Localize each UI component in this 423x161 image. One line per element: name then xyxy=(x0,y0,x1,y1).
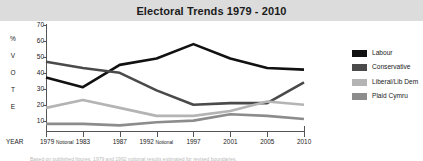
x-axis-year: 1983 xyxy=(76,138,90,145)
x-axis-note: Notional xyxy=(156,140,174,145)
legend-item: Plaid Cymru xyxy=(352,90,423,105)
axis-tick-marks xyxy=(43,26,305,137)
legend-label: Conservative xyxy=(372,64,410,71)
x-axis-tick-label: 2010 xyxy=(297,139,311,145)
x-axis-tick-label: 1997 xyxy=(186,139,200,145)
x-axis-tick-label: 2001 xyxy=(223,139,237,145)
x-axis-year: 1992 xyxy=(140,138,154,145)
x-axis-tick-labels: 1979 Notional198319871992 Notional199720… xyxy=(0,139,423,150)
legend-item: Conservative xyxy=(352,61,423,76)
legend-item: Liberal/Lib Dem xyxy=(352,75,423,90)
data-series-lines xyxy=(46,44,304,125)
x-axis-year: 1987 xyxy=(113,138,127,145)
x-axis-year: 1979 xyxy=(40,138,54,145)
legend: LabourConservativeLiberal/Lib DemPlaid C… xyxy=(352,46,423,104)
x-axis-year: 1997 xyxy=(186,138,200,145)
x-axis-note: Notional xyxy=(56,140,74,145)
legend-item: Labour xyxy=(352,46,423,61)
x-axis-tick-label: 1979 Notional xyxy=(40,139,74,146)
legend-swatch xyxy=(352,93,367,100)
legend-swatch xyxy=(352,64,367,71)
legend-swatch xyxy=(352,50,367,57)
legend-label: Labour xyxy=(372,50,393,57)
x-axis-year: 2010 xyxy=(297,138,311,145)
series-line xyxy=(46,100,304,116)
x-axis-tick-label: 1987 xyxy=(113,139,127,145)
legend-swatch xyxy=(352,79,367,86)
x-axis-tick-label: 1983 xyxy=(76,139,90,145)
x-axis-tick-label: 2005 xyxy=(260,139,274,145)
legend-label: Plaid Cymru xyxy=(372,93,408,100)
series-line xyxy=(46,44,304,87)
x-axis-tick-label: 1992 Notional xyxy=(140,139,174,146)
legend-label: Liberal/Lib Dem xyxy=(372,79,418,86)
footnote-text: Based on published figures. 1979 and 199… xyxy=(0,156,423,161)
x-axis-year: 2005 xyxy=(260,138,274,145)
electoral-trends-chart: Electoral Trends 1979 - 2010 %VOTE 70605… xyxy=(0,0,423,161)
footnote-strip: Based on published figures. 1979 and 199… xyxy=(0,156,423,161)
x-axis-year: 2001 xyxy=(223,138,237,145)
